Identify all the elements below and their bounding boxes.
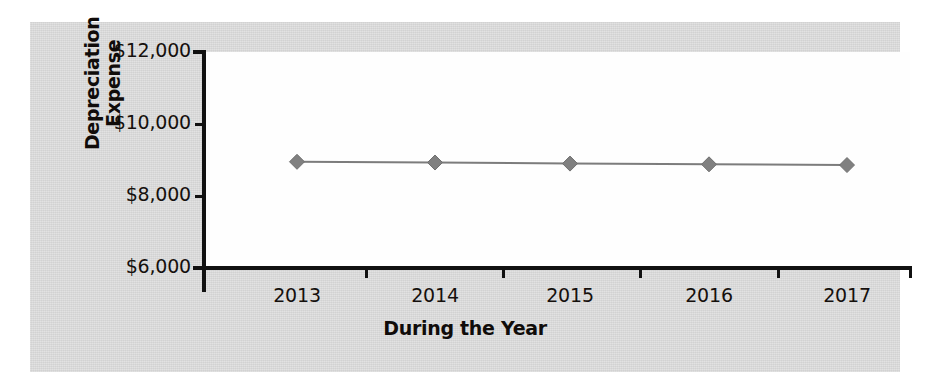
y-axis-title: Depreciation Expense — [82, 0, 125, 178]
data-point-marker — [702, 157, 717, 172]
y-axis-tick — [193, 50, 206, 54]
y-axis-tick-label: $10,000 — [114, 111, 191, 133]
x-axis-tick-label: 2016 — [685, 284, 733, 306]
plot-area — [203, 52, 910, 268]
chart-screenshot: $6,000$8,000$10,000$12,000 2013201420152… — [0, 0, 926, 391]
data-point-marker — [563, 156, 578, 171]
x-axis-tick — [365, 268, 368, 278]
x-axis-tick — [909, 268, 912, 278]
y-axis-tick-label: $6,000 — [126, 255, 191, 277]
y-axis-line — [202, 51, 206, 292]
x-axis-tick-label: 2014 — [411, 284, 459, 306]
x-axis-line — [202, 266, 912, 270]
x-axis-tick-label: 2017 — [823, 284, 871, 306]
x-axis-tick — [502, 268, 505, 278]
x-axis-tick — [202, 265, 206, 279]
data-point-marker — [290, 154, 305, 169]
x-axis-tick — [777, 268, 780, 278]
data-point-marker — [840, 158, 855, 173]
x-axis-tick-label: 2015 — [546, 284, 594, 306]
y-axis-tick-label: $8,000 — [126, 183, 191, 205]
x-axis-tick-label: 2013 — [273, 284, 321, 306]
chart-panel: $6,000$8,000$10,000$12,000 2013201420152… — [30, 22, 900, 372]
y-axis-tick-label: $12,000 — [114, 39, 191, 61]
x-axis-title: During the Year — [30, 317, 900, 339]
series-line-chart — [203, 52, 910, 268]
x-axis-tick — [639, 268, 642, 278]
y-axis-tick — [195, 195, 204, 198]
y-axis-tick — [195, 123, 204, 126]
data-point-marker — [428, 155, 443, 170]
